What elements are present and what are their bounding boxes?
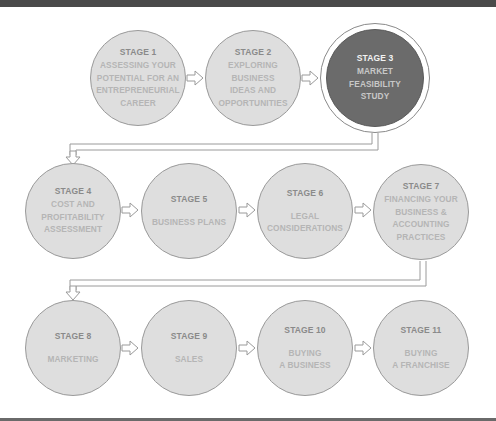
arrow-icon-9-10 <box>239 341 255 355</box>
stage-description: FINANCING YOUR BUSINESS & ACCOUNTING PRA… <box>384 193 458 243</box>
stage-description: LEGAL CONSIDERATIONS <box>267 210 343 235</box>
stage-label: STAGE 3 <box>357 53 393 63</box>
stage-label: STAGE 4 <box>55 186 91 196</box>
arrow-icon-5-6 <box>239 203 255 217</box>
stage-3-inner: STAGE 3 MARKET FEASIBILITY STUDY <box>326 29 424 127</box>
stage-label: STAGE 8 <box>55 331 91 341</box>
stage-label: STAGE 5 <box>171 194 207 204</box>
stage-description: ASSESSING YOUR POTENTIAL FOR AN ENTREPRE… <box>96 59 180 109</box>
elbow-connector-7-8 <box>70 261 426 290</box>
stage-label: STAGE 11 <box>401 325 442 335</box>
stage-description: SALES <box>175 353 203 366</box>
arrow-icon-4-5 <box>122 203 138 217</box>
stage-description: EXPLORING BUSINESS IDEAS AND OPPORTUNITI… <box>218 59 287 109</box>
stage-7-circle: STAGE 7 FINANCING YOUR BUSINESS & ACCOUN… <box>373 164 469 260</box>
down-arrow-icon-8 <box>66 286 80 300</box>
stage-10-circle: STAGE 10 BUYING A BUSINESS <box>257 300 353 396</box>
stage-2-circle: STAGE 2 EXPLORING BUSINESS IDEAS AND OPP… <box>205 30 301 126</box>
stage-description: COST AND PROFITABILITY ASSESSMENT <box>41 198 104 236</box>
stage-8-circle: STAGE 8 MARKETING <box>25 300 121 396</box>
stage-description: BUYING A BUSINESS <box>279 347 330 372</box>
stage-label: STAGE 2 <box>235 47 271 57</box>
stage-11-circle: STAGE 11 BUYING A FRANCHISE <box>373 300 469 396</box>
stage-description: MARKETING <box>47 353 98 366</box>
stage-3-circle-active: STAGE 3 MARKET FEASIBILITY STUDY <box>320 23 430 133</box>
stage-label: STAGE 10 <box>284 325 325 335</box>
stage-4-circle: STAGE 4 COST AND PROFITABILITY ASSESSMEN… <box>25 163 121 259</box>
arrow-icon-6-7 <box>355 203 371 217</box>
stage-6-circle: STAGE 6 LEGAL CONSIDERATIONS <box>257 163 353 259</box>
stage-1-circle: STAGE 1 ASSESSING YOUR POTENTIAL FOR AN … <box>90 30 186 126</box>
arrow-icon-1-2 <box>187 71 203 85</box>
stage-label: STAGE 6 <box>287 188 323 198</box>
stage-5-circle: STAGE 5 BUSINESS PLANS <box>141 163 237 259</box>
stage-description: BUSINESS PLANS <box>152 216 226 229</box>
arrow-icon-10-11 <box>355 341 371 355</box>
stage-description: BUYING A FRANCHISE <box>392 347 450 372</box>
stage-label: STAGE 9 <box>171 331 207 341</box>
stage-label: STAGE 7 <box>403 181 439 191</box>
arrow-icon-2-3 <box>302 71 318 85</box>
arrow-icon-8-9 <box>122 341 138 355</box>
stage-description: MARKET FEASIBILITY STUDY <box>349 65 401 103</box>
elbow-connector-3-4 <box>70 133 378 155</box>
stage-9-circle: STAGE 9 SALES <box>141 300 237 396</box>
stage-label: STAGE 1 <box>120 47 156 57</box>
